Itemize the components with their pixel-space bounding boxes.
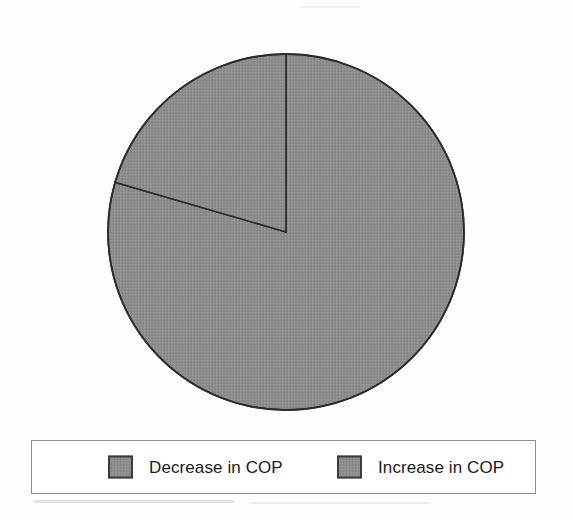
pie-chart-svg <box>99 45 473 419</box>
scan-artifact <box>250 502 430 504</box>
legend-swatch-icon-increase-in-cop <box>337 456 362 479</box>
legend-item-decrease-in-cop[interactable]: Decrease in COP <box>108 456 283 479</box>
pie-chart-figure: Decrease in COP Increase in COP <box>0 0 573 520</box>
scan-artifact <box>34 500 234 503</box>
legend-item-increase-in-cop[interactable]: Increase in COP <box>337 456 504 479</box>
legend-label-decrease-in-cop: Decrease in COP <box>149 457 283 477</box>
legend-swatch-icon-decrease-in-cop <box>108 456 133 479</box>
legend-label-increase-in-cop: Increase in COP <box>378 457 504 477</box>
legend: Decrease in COP Increase in COP <box>31 440 536 494</box>
legend-row: Decrease in COP Increase in COP <box>32 441 535 493</box>
scan-artifact <box>300 6 360 8</box>
pie-chart <box>99 45 473 419</box>
